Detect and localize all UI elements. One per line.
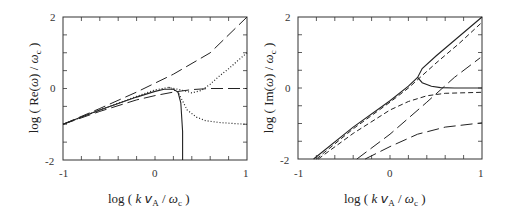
- curve-solid-lower: [418, 77, 482, 88]
- left-xtick-neg1: -1: [59, 167, 68, 179]
- curve-solid: [63, 89, 183, 160]
- curve-long-dash-2: [365, 123, 482, 159]
- right-xtick-1: 1: [478, 167, 484, 179]
- left-curves: [63, 17, 247, 160]
- curve-long-dash-lower: [63, 89, 247, 125]
- left-xtick-0: 0: [152, 167, 158, 179]
- left-ytick-2: 2: [50, 11, 56, 23]
- right-panel: 2 0 -2 -1 0 1 log ( k vA / ωc ) log ( Im…: [261, 11, 484, 208]
- right-xtick-0: 0: [387, 167, 393, 179]
- right-ylabel: log ( Im(ω) / ωc ): [261, 43, 278, 134]
- figure: 2 0 -2 -1 0 1 log ( k vA / ωc ) log ( Re…: [0, 0, 507, 216]
- right-xlabel: log ( k vA / ωc ): [344, 191, 426, 208]
- left-panel: 2 0 -2 -1 0 1 log ( k vA / ωc ) log ( Re…: [26, 11, 249, 208]
- right-curves: [314, 17, 482, 159]
- left-ytick-0: 0: [50, 82, 56, 94]
- left-ylabel: log ( Re(ω) / ωc ): [26, 43, 43, 134]
- left-xlabel: log ( k vA / ωc ): [108, 191, 190, 208]
- right-ytick-2: 2: [285, 11, 291, 23]
- left-ytick-neg2: -2: [45, 155, 54, 167]
- right-xtick-neg1: -1: [294, 167, 303, 179]
- left-xtick-1: 1: [243, 167, 249, 179]
- right-ytick-neg2: -2: [280, 154, 289, 166]
- curve-long-dash-upper: [63, 17, 247, 124]
- curve-long-dash-1: [357, 58, 480, 159]
- curve-short-dash-1: [316, 22, 482, 159]
- right-ytick-0: 0: [285, 82, 291, 94]
